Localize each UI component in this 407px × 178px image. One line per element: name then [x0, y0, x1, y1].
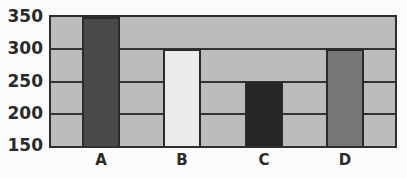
- y-tick-label: 350: [0, 8, 43, 25]
- bar-a: [82, 17, 120, 146]
- y-tick-label: 250: [0, 73, 43, 90]
- x-tick-label: D: [325, 151, 365, 169]
- plot-area: [49, 15, 397, 148]
- bar-chart: 150200250300350ABCD: [0, 0, 407, 178]
- bar-d: [326, 49, 364, 146]
- y-tick-label: 300: [0, 40, 43, 57]
- y-tick-label: 150: [0, 137, 43, 154]
- x-tick-label: A: [81, 151, 121, 169]
- bar-c: [245, 82, 283, 147]
- x-tick-label: B: [162, 151, 202, 169]
- y-tick-label: 200: [0, 105, 43, 122]
- bar-b: [163, 49, 201, 146]
- x-tick-label: C: [244, 151, 284, 169]
